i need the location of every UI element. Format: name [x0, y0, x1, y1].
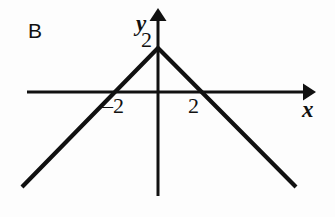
x-negative-root-tick-label: –2 — [102, 95, 124, 117]
graph-canvas — [0, 0, 335, 217]
graph-figure: B y x 2 –2 2 — [0, 0, 335, 217]
y-axis-arrow-icon — [150, 8, 167, 21]
x-axis-label: x — [302, 98, 314, 121]
y-intercept-tick-label: 2 — [141, 29, 152, 51]
x-positive-root-tick-label: 2 — [188, 95, 199, 117]
panel-label: B — [28, 20, 43, 41]
